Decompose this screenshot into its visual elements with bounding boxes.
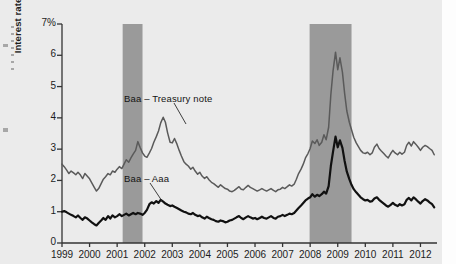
y-tick-label: 5 bbox=[6, 80, 56, 91]
interest-rate-spread-chart bbox=[0, 0, 456, 264]
recession-band bbox=[310, 24, 352, 243]
baa-aaa-label: Baa – Aaa bbox=[124, 173, 169, 184]
y-tick-label: 6 bbox=[6, 48, 56, 59]
y-tick-label: 0 bbox=[6, 236, 56, 247]
x-tick-label: 2012 bbox=[402, 249, 438, 260]
baa-treasury-label: Baa – Treasury note bbox=[124, 93, 212, 104]
recession-band bbox=[123, 24, 143, 243]
y-tick-label: 4 bbox=[6, 111, 56, 122]
y-tick-label: 7% bbox=[6, 17, 56, 28]
y-tick-label: 2 bbox=[6, 173, 56, 184]
series-line bbox=[62, 137, 434, 226]
y-tick-label: 3 bbox=[6, 142, 56, 153]
series-line bbox=[62, 52, 434, 192]
figure-container: Interest rate 01234567%19992000200120022… bbox=[0, 0, 456, 264]
annotation-leader-line bbox=[150, 183, 162, 201]
y-tick-label: 1 bbox=[6, 205, 56, 216]
annotation-leader-line bbox=[174, 103, 186, 124]
